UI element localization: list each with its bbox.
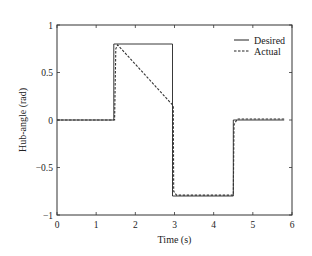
y-tick-label: −0.5	[36, 163, 53, 173]
y-tick-labels: 10.50−0.5−1	[36, 21, 53, 221]
y-tick-label: 0	[48, 116, 53, 126]
plot-area	[57, 44, 284, 196]
y-tick-label: 0.5	[41, 68, 53, 78]
x-tick-label: 5	[250, 220, 255, 230]
legend: Desired Actual	[234, 35, 285, 57]
x-axis-label: Time (s)	[158, 234, 192, 246]
x-tick-label: 0	[55, 220, 60, 230]
legend-actual-label: Actual	[254, 46, 281, 57]
y-tick-label: 1	[48, 21, 53, 31]
x-tick-label: 1	[94, 220, 99, 230]
x-tick-label: 3	[172, 220, 177, 230]
x-tick-labels: 0123456	[55, 220, 295, 230]
chart-canvas: 0123456 10.50−0.5−1 Time (s) Hub-angle (…	[0, 0, 312, 256]
y-axis-label: Hub-angle (rad)	[17, 88, 29, 152]
x-tick-label: 2	[133, 220, 138, 230]
x-tick-label: 4	[211, 220, 216, 230]
y-tick-label: −1	[43, 211, 53, 221]
x-tick-label: 6	[290, 220, 295, 230]
legend-desired-label: Desired	[254, 35, 285, 46]
